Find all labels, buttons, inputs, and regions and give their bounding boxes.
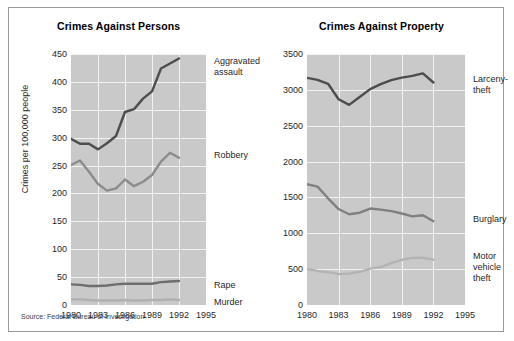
series-label-robbery: Robbery bbox=[214, 150, 248, 161]
y-tick-label: 100 bbox=[33, 244, 67, 254]
y-tick-label: 0 bbox=[269, 300, 303, 310]
x-tick-label: 1983 bbox=[329, 310, 349, 320]
line-aggravated-assault bbox=[71, 58, 179, 149]
series-lines-persons bbox=[71, 54, 206, 305]
line-robbery bbox=[71, 153, 179, 191]
x-tick-label: 1992 bbox=[169, 310, 189, 320]
plot-area-persons bbox=[71, 54, 206, 305]
y-tick-label: 2000 bbox=[269, 157, 303, 167]
y-tick-label: 400 bbox=[33, 77, 67, 87]
series-lines-property bbox=[307, 54, 465, 305]
figure-frame: Crimes Against Persons Crimes per 100,00… bbox=[8, 7, 504, 332]
panel-crimes-against-persons: Crimes Against Persons Crimes per 100,00… bbox=[9, 8, 271, 333]
y-axis-label-persons: Crimes per 100,000 people bbox=[20, 59, 30, 219]
x-tick-label: 1980 bbox=[297, 310, 317, 320]
y-tick-label: 1000 bbox=[269, 228, 303, 238]
x-tick-label: 1995 bbox=[455, 310, 475, 320]
y-tick-label: 250 bbox=[33, 161, 67, 171]
x-tick-label: 1989 bbox=[142, 310, 162, 320]
y-tick-label: 200 bbox=[33, 188, 67, 198]
source-note: Source: Federal Bureau of Investigation bbox=[21, 313, 144, 320]
x-tick-label: 1989 bbox=[392, 310, 412, 320]
series-label-motor-vehicle-theft: Motor vehicle theft bbox=[473, 251, 501, 284]
chart-title-persons: Crimes Against Persons bbox=[57, 20, 180, 32]
series-label-aggravated-assault: Aggravated assault bbox=[214, 56, 260, 78]
y-tick-label: 500 bbox=[269, 264, 303, 274]
y-tick-label: 450 bbox=[33, 49, 67, 59]
series-label-murder: Murder bbox=[214, 297, 243, 308]
plot-area-property bbox=[307, 54, 465, 305]
x-tick-label: 1986 bbox=[360, 310, 380, 320]
x-tick-label: 1995 bbox=[196, 310, 216, 320]
y-tick-label: 0 bbox=[33, 300, 67, 310]
panel-crimes-against-property: Crimes Against Property 3500300025002000… bbox=[259, 8, 505, 333]
y-tick-label: 1500 bbox=[269, 192, 303, 202]
series-label-rape: Rape bbox=[214, 280, 236, 291]
x-tick-label: 1992 bbox=[423, 310, 443, 320]
y-tick-label: 3000 bbox=[269, 85, 303, 95]
y-tick-label: 2500 bbox=[269, 121, 303, 131]
chart-title-property: Crimes Against Property bbox=[319, 20, 444, 32]
y-tick-label: 150 bbox=[33, 216, 67, 226]
line-larceny-theft bbox=[307, 73, 433, 104]
line-motor-vehicle-theft bbox=[307, 258, 433, 274]
y-tick-label: 300 bbox=[33, 133, 67, 143]
y-tick-label: 50 bbox=[33, 272, 67, 282]
series-label-larceny-theft: Larceny- theft bbox=[473, 74, 508, 96]
line-murder bbox=[71, 299, 179, 300]
y-tick-label: 3500 bbox=[269, 49, 303, 59]
series-label-burglary: Burglary bbox=[473, 214, 507, 225]
y-tick-label: 350 bbox=[33, 105, 67, 115]
line-rape bbox=[71, 281, 179, 286]
line-burglary bbox=[307, 184, 433, 221]
